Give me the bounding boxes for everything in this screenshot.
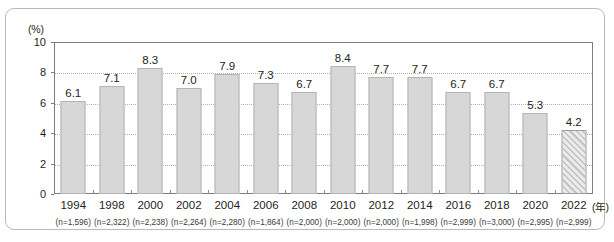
x-axis-tick-label: 2018 <box>484 199 510 211</box>
x-axis-tick-label: 2020 <box>522 199 548 211</box>
bar <box>99 86 124 194</box>
bar-value-label: 7.1 <box>104 72 120 84</box>
y-axis-tick-label: 0 <box>6 188 46 200</box>
bar-slot: 4.2 <box>555 42 594 194</box>
bar-value-label: 8.4 <box>335 52 351 64</box>
bar-value-label: 5.3 <box>527 99 543 111</box>
x-axis-tick-mark <box>401 190 402 194</box>
x-axis-tick-label: 2000 <box>137 199 163 211</box>
bar-value-label: 6.7 <box>489 78 505 90</box>
bar-slot: 6.7 <box>478 42 517 194</box>
sample-size-label: (n=2,000) <box>364 218 399 227</box>
bar-value-label: 4.2 <box>566 116 582 128</box>
bar-slot: 7.3 <box>247 42 286 194</box>
bar-value-label: 7.3 <box>258 69 274 81</box>
y-axis-tick-label: 2 <box>6 158 46 170</box>
x-axis-unit-label: (年) <box>592 199 609 214</box>
bar-slot: 7.0 <box>170 42 209 194</box>
y-axis-tick-label: 6 <box>6 97 46 109</box>
bar-value-label: 7.0 <box>181 74 197 86</box>
x-axis-tick-label: 2006 <box>253 199 279 211</box>
x-axis-tick-mark <box>247 190 248 194</box>
bar <box>484 92 509 194</box>
x-axis-tick-mark <box>362 190 363 194</box>
bar <box>253 83 278 194</box>
sample-size-label: (n=2,264) <box>171 218 206 227</box>
bar <box>561 130 586 194</box>
x-axis-category-labels: 1994199820002002200420062008201020122014… <box>54 199 593 211</box>
x-axis-tick-label: 2008 <box>291 199 317 211</box>
sample-size-label: (n=1,998) <box>402 218 437 227</box>
x-axis-sample-size-labels: (n=1,596)(n=2,322)(n=2,238)(n=2,264)(n=2… <box>54 218 593 229</box>
sample-size-label: (n=2,322) <box>94 218 129 227</box>
y-axis-tick-mark <box>51 72 54 73</box>
x-axis-tick-mark <box>131 190 132 194</box>
x-axis-tick-label: 2022 <box>561 199 587 211</box>
bar-slot: 6.7 <box>439 42 478 194</box>
bar-value-label: 6.7 <box>450 78 466 90</box>
bar <box>292 92 317 194</box>
bar-slot: 7.9 <box>208 42 247 194</box>
bar-slot: 7.7 <box>362 42 401 194</box>
x-axis-tick-mark <box>93 190 94 194</box>
bar-value-label: 7.7 <box>373 63 389 75</box>
y-axis-tick-label: 4 <box>6 127 46 139</box>
x-axis-tick-mark <box>324 190 325 194</box>
bar-value-label: 7.9 <box>219 60 235 72</box>
bar <box>330 66 355 194</box>
sample-size-label: (n=2,238) <box>133 218 168 227</box>
bar-slot: 6.1 <box>54 42 93 194</box>
bar <box>369 77 394 194</box>
chart-card: (%) 6.17.18.37.07.97.36.78.47.77.76.76.7… <box>5 8 605 230</box>
x-axis-tick-mark <box>285 190 286 194</box>
bar <box>138 68 163 194</box>
bar-slot: 8.3 <box>131 42 170 194</box>
x-axis-tick-label: 2004 <box>214 199 240 211</box>
bar <box>215 74 240 194</box>
x-axis-tick-mark <box>439 190 440 194</box>
x-axis-tick-label: 2014 <box>407 199 433 211</box>
sample-size-label: (n=3,000) <box>479 218 514 227</box>
sample-size-label: (n=2,999) <box>556 218 591 227</box>
bar <box>176 88 201 194</box>
bar <box>407 77 432 194</box>
y-axis-tick-mark <box>51 103 54 104</box>
y-axis-tick-label: 8 <box>6 66 46 78</box>
bar <box>61 101 86 194</box>
x-axis-tick-label: 1998 <box>99 199 125 211</box>
bar-slot: 6.7 <box>285 42 324 194</box>
sample-size-label: (n=2,280) <box>210 218 245 227</box>
sample-size-label: (n=2,000) <box>325 218 360 227</box>
sample-size-label: (n=2,995) <box>518 218 553 227</box>
bar <box>446 92 471 194</box>
bar-slot: 7.1 <box>93 42 132 194</box>
x-axis-tick-label: 2012 <box>368 199 394 211</box>
x-axis-tick-mark <box>208 190 209 194</box>
bar-slot: 5.3 <box>516 42 555 194</box>
x-axis-tick-label: 1994 <box>60 199 86 211</box>
bar-series: 6.17.18.37.07.97.36.78.47.77.76.76.75.34… <box>54 42 593 194</box>
x-axis-tick-mark <box>170 190 171 194</box>
sample-size-label: (n=2,000) <box>287 218 322 227</box>
x-axis-tick-label: 2016 <box>445 199 471 211</box>
bar-value-label: 6.1 <box>65 87 81 99</box>
bar <box>523 113 548 194</box>
sample-size-label: (n=2,999) <box>441 218 476 227</box>
bar-value-label: 7.7 <box>412 63 428 75</box>
x-axis-tick-mark <box>478 190 479 194</box>
y-axis-tick-mark <box>51 194 54 195</box>
x-axis-tick-mark <box>516 190 517 194</box>
y-axis-unit-label: (%) <box>28 23 44 35</box>
y-axis-tick-mark <box>51 133 54 134</box>
bar-value-label: 6.7 <box>296 78 312 90</box>
sample-size-label: (n=1,864) <box>248 218 283 227</box>
x-axis-tick-label: 2010 <box>330 199 356 211</box>
bar-value-label: 8.3 <box>142 54 158 66</box>
x-axis-tick-mark <box>555 190 556 194</box>
x-axis-tick-label: 2002 <box>176 199 202 211</box>
bar-slot: 7.7 <box>401 42 440 194</box>
sample-size-label: (n=1,596) <box>56 218 91 227</box>
y-axis-tick-mark <box>51 42 54 43</box>
y-axis-tick-label: 10 <box>6 36 46 48</box>
y-axis-tick-mark <box>51 164 54 165</box>
